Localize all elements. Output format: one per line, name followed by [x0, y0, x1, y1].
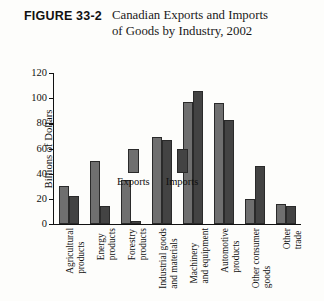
bar-imports: [100, 206, 110, 224]
bar-exports: [90, 161, 100, 224]
bar-exports: [59, 186, 69, 224]
y-tick-label: 100: [31, 93, 47, 104]
y-tick-label: 20: [37, 194, 48, 205]
x-axis-label: Industrial goodsand materials: [158, 228, 179, 289]
x-axis-label: Automotiveproducts: [220, 228, 241, 273]
x-axis-label: Machineryand equipment: [189, 228, 210, 283]
y-tick-mark: [49, 224, 53, 225]
x-axis-label: Energyproducts: [96, 228, 117, 260]
figure-container: FIGURE 33-2 Canadian Exports and Imports…: [0, 0, 324, 301]
legend-label-imports: Imports: [166, 176, 199, 187]
figure-header: FIGURE 33-2 Canadian Exports and Imports…: [24, 8, 314, 39]
bar-imports: [255, 166, 265, 224]
figure-number: FIGURE 33-2: [24, 8, 102, 23]
bar-imports: [131, 221, 141, 224]
y-tick-label: 40: [37, 168, 48, 179]
bar-group: [208, 73, 239, 224]
bar-group: [270, 73, 301, 224]
y-tick-label: 0: [42, 219, 47, 230]
legend-item-imports: Imports: [166, 149, 199, 187]
plot-area: Billions of Dollars 120100806040200 Expo…: [53, 73, 301, 224]
x-axis-label: Othertrade: [282, 228, 303, 249]
bar-imports: [224, 120, 234, 224]
y-tick-label: 80: [37, 118, 48, 129]
bar-exports: [214, 103, 224, 224]
legend-swatch-imports: [177, 149, 188, 173]
figure-title: Canadian Exports and Imports of Goods by…: [112, 8, 277, 39]
legend-swatch-exports: [128, 149, 139, 173]
bar-group: [239, 73, 270, 224]
bar-imports: [69, 196, 79, 224]
y-tick-label: 60: [37, 143, 48, 154]
x-axis-label: Agriculturalproducts: [65, 228, 86, 274]
y-tick-label: 120: [31, 68, 47, 79]
chart-legend: Exports Imports: [117, 149, 198, 187]
legend-item-exports: Exports: [117, 149, 150, 187]
bar-group: [53, 73, 84, 224]
x-axis-label: Other consumergoods: [251, 228, 272, 288]
bar-exports: [276, 204, 286, 224]
legend-label-exports: Exports: [117, 176, 150, 187]
x-axis-labels: AgriculturalproductsEnergyproductsForest…: [53, 228, 301, 301]
bar-exports: [245, 199, 255, 224]
bar-imports: [286, 206, 296, 224]
x-axis-line: [53, 224, 301, 225]
bar-group: [84, 73, 115, 224]
x-axis-label: Forestryproducts: [127, 228, 148, 260]
